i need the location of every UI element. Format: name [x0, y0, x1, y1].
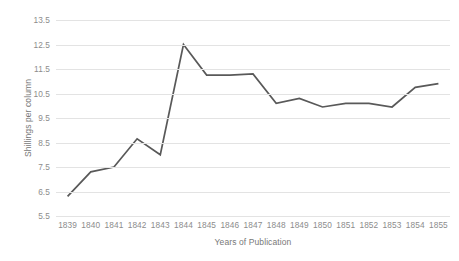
x-axis-tick-label: 1853 — [383, 220, 402, 230]
x-axis-tick-label: 1843 — [151, 220, 170, 230]
series-polyline — [68, 45, 439, 197]
x-axis-tick-label: 1846 — [220, 220, 239, 230]
gridline — [56, 192, 450, 193]
x-axis-tick-label: 1855 — [429, 220, 448, 230]
y-axis-tick-label: 11.5 — [22, 64, 50, 74]
x-axis-tick-label: 1850 — [313, 220, 332, 230]
y-axis-tick-label: 9.5 — [22, 113, 50, 123]
x-axis-tick-label: 1848 — [267, 220, 286, 230]
y-axis-tick-label: 13.5 — [22, 15, 50, 25]
y-axis-tick-label: 5.5 — [22, 211, 50, 221]
x-axis-tick-label: 1849 — [290, 220, 309, 230]
gridline — [56, 167, 450, 168]
gridline — [56, 118, 450, 119]
y-axis-tick-label: 7.5 — [22, 162, 50, 172]
x-axis-tick-label: 1851 — [336, 220, 355, 230]
gridline — [56, 216, 450, 217]
x-axis-tick-label: 1844 — [174, 220, 193, 230]
gridline — [56, 45, 450, 46]
gridline — [56, 20, 450, 21]
y-axis-tick-label: 8.5 — [22, 138, 50, 148]
x-axis-tick-label: 1847 — [244, 220, 263, 230]
line-chart: Shillings per column 13.512.511.510.59.5… — [0, 0, 459, 261]
y-axis-tick-label: 10.5 — [22, 89, 50, 99]
x-axis-tick-label: 1841 — [105, 220, 124, 230]
x-axis-tick-label: 1840 — [81, 220, 100, 230]
y-axis-tick-label: 6.5 — [22, 187, 50, 197]
plot-area — [56, 20, 450, 216]
x-axis-tick-label: 1845 — [197, 220, 216, 230]
x-axis-tick-label: 1842 — [128, 220, 147, 230]
x-axis-tick-label: 1839 — [58, 220, 77, 230]
gridline — [56, 143, 450, 144]
gridline — [56, 69, 450, 70]
gridline — [56, 94, 450, 95]
y-axis-tick-label: 12.5 — [22, 40, 50, 50]
x-axis-tick-label: 1852 — [359, 220, 378, 230]
x-axis-tick-label: 1854 — [406, 220, 425, 230]
y-axis-tick-labels: 13.512.511.510.59.58.57.56.55.5 — [22, 0, 50, 261]
x-axis-title: Years of Publication — [56, 237, 450, 247]
x-axis-tick-labels: 1839184018411842184318441845184618471848… — [56, 220, 450, 234]
